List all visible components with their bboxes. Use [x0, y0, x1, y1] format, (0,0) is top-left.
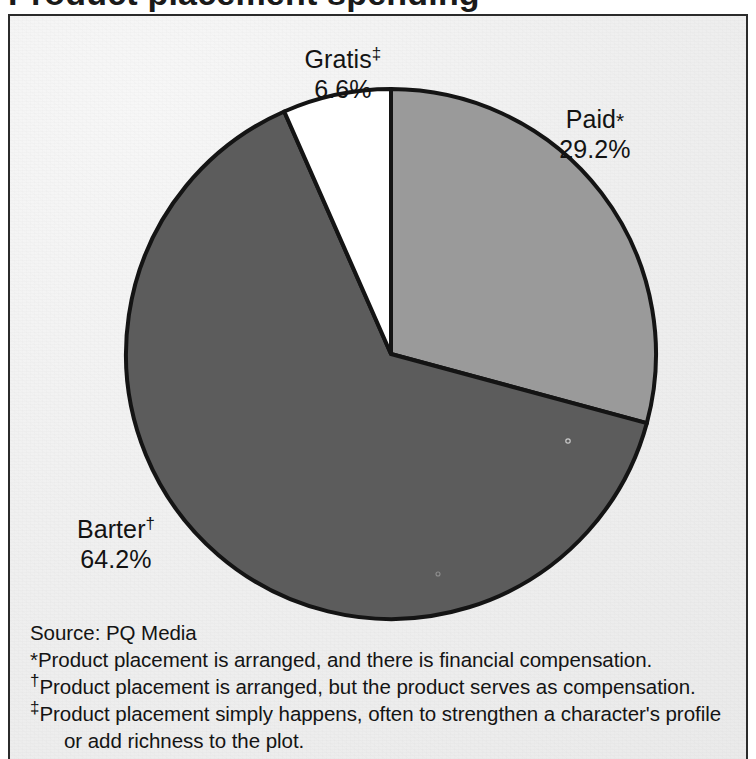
footnote-block: Source: PQ Media *Product placement is a…: [30, 619, 742, 754]
figure-panel: Gratis‡ 6.6% Paid* 29.2% Barter† 64.2% S…: [8, 14, 748, 759]
source-line: Source: PQ Media: [30, 619, 742, 646]
page-title: Product placement spending: [8, 0, 480, 13]
footnote-marker-asterisk: *: [30, 648, 38, 671]
pie-label-barter-value: 64.2%: [16, 544, 216, 574]
pie-label-paid-value: 29.2%: [505, 134, 685, 164]
pie-label-gratis-name: Gratis‡: [253, 44, 433, 74]
cropped-title-strip: Product placement spending: [0, 0, 756, 13]
footnote-barter: †Product placement is arranged, but the …: [30, 673, 742, 700]
pie-label-barter: Barter† 64.2%: [16, 514, 216, 574]
footnote-paid: *Product placement is arranged, and ther…: [30, 646, 742, 673]
footnote-gratis: ‡Product placement simply happens, often…: [30, 700, 742, 727]
footnote-paid-text: Product placement is arranged, and there…: [38, 648, 652, 671]
footnote-gratis-continued: or add richness to the plot.: [30, 727, 742, 754]
footnote-marker-dagger: †: [30, 671, 39, 690]
pie-label-barter-name: Barter†: [16, 514, 216, 544]
footnote-marker-double-dagger: ‡: [372, 44, 382, 63]
footnote-marker-asterisk: *: [616, 109, 624, 132]
pie-label-paid-name: Paid*: [505, 104, 685, 134]
footnote-marker-dagger: †: [146, 514, 156, 533]
footnote-gratis-text: Product placement simply happens, often …: [39, 702, 721, 725]
pie-label-gratis-value: 6.6%: [253, 74, 433, 104]
pie-label-paid: Paid* 29.2%: [505, 104, 685, 164]
pie-label-gratis: Gratis‡ 6.6%: [253, 44, 433, 104]
footnote-marker-double-dagger: ‡: [30, 698, 39, 717]
footnote-barter-text: Product placement is arranged, but the p…: [39, 675, 695, 698]
